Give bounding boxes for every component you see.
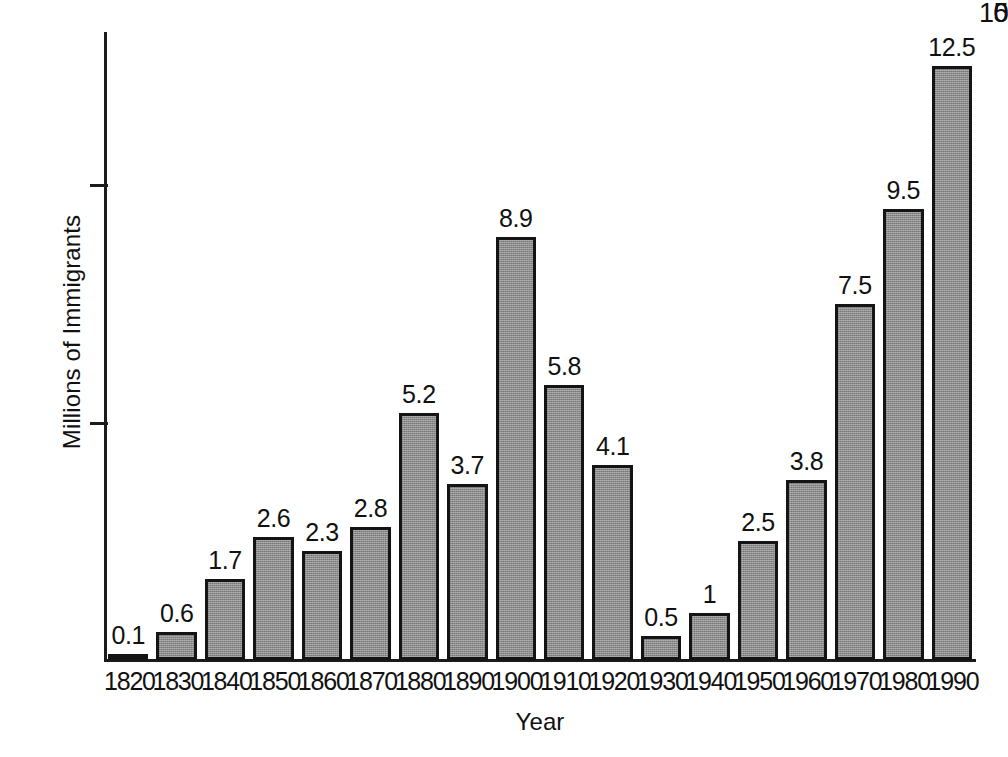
- y-axis-tick-mark-5: [90, 422, 108, 425]
- bar-value-label-1870: 2.8: [340, 496, 400, 521]
- bar-rect-1940: [689, 613, 729, 661]
- x-axis-category-labels: 1820183018401850186018701880189019001910…: [104, 666, 976, 706]
- bar-rect-1990: [932, 66, 972, 660]
- bar-value-label-1990: 12.5: [922, 35, 982, 60]
- bar-1990[interactable]: 12.5: [928, 32, 976, 660]
- x-axis-label-1950: 1950: [734, 666, 782, 696]
- bar-value-label-1900: 8.9: [486, 206, 546, 231]
- bar-rect-1910: [544, 385, 584, 661]
- bar-rect-1930: [641, 636, 681, 660]
- bar-value-label-1970: 7.5: [825, 273, 885, 298]
- x-axis-label-1920: 1920: [588, 666, 636, 696]
- bar-1880[interactable]: 5.2: [395, 32, 443, 660]
- x-axis-label-1980: 1980: [879, 666, 927, 696]
- immigration-bar-chart: 0 5 10 Millions of Immigrants Year 0.10.…: [0, 0, 1008, 757]
- x-axis-label-1870: 1870: [346, 666, 394, 696]
- bar-1820[interactable]: 0.1: [104, 32, 152, 660]
- bar-rect-1850: [253, 537, 293, 661]
- bar-value-label-1940: 1: [679, 582, 739, 607]
- bar-1900[interactable]: 8.9: [492, 32, 540, 660]
- bar-rect-1820: [108, 654, 148, 660]
- bar-1970[interactable]: 7.5: [831, 32, 879, 660]
- x-axis-label-1850: 1850: [249, 666, 297, 696]
- bar-value-label-1910: 5.8: [534, 354, 594, 379]
- bar-1920[interactable]: 4.1: [588, 32, 636, 660]
- bar-1940[interactable]: 1: [685, 32, 733, 660]
- bar-value-label-1840: 1.7: [195, 548, 255, 573]
- bar-1930[interactable]: 0.5: [637, 32, 685, 660]
- bar-value-label-1890: 3.7: [437, 453, 497, 478]
- x-axis-label-1900: 1900: [492, 666, 540, 696]
- bar-rect-1950: [738, 541, 778, 660]
- bar-value-label-1960: 3.8: [776, 449, 836, 474]
- x-axis-title: Year: [104, 709, 976, 735]
- x-axis-label-1970: 1970: [831, 666, 879, 696]
- y-axis-tick-label-10: 10: [922, 0, 1008, 27]
- x-axis-label-1940: 1940: [685, 666, 733, 696]
- bar-1910[interactable]: 5.8: [540, 32, 588, 660]
- x-axis-label-1930: 1930: [637, 666, 685, 696]
- bar-value-label-1920: 4.1: [582, 434, 642, 459]
- bar-rect-1980: [883, 209, 923, 660]
- bar-value-label-1930: 0.5: [631, 605, 691, 630]
- y-axis-tick-mark-10: [90, 184, 108, 187]
- x-axis-label-1910: 1910: [540, 666, 588, 696]
- bar-rect-1900: [496, 237, 536, 660]
- bar-value-label-1950: 2.5: [728, 510, 788, 535]
- x-axis-label-1840: 1840: [201, 666, 249, 696]
- bar-value-label-1880: 5.2: [389, 382, 449, 407]
- bar-rect-1920: [592, 465, 632, 660]
- bar-rect-1870: [350, 527, 390, 660]
- bar-rect-1860: [302, 551, 342, 660]
- x-axis-label-1960: 1960: [782, 666, 830, 696]
- bar-1950[interactable]: 2.5: [734, 32, 782, 660]
- bar-value-label-1980: 9.5: [873, 178, 933, 203]
- y-axis-title: Millions of Immigrants: [60, 182, 84, 482]
- bar-value-label-1820: 0.1: [98, 623, 158, 648]
- bar-1860[interactable]: 2.3: [298, 32, 346, 660]
- bar-rect-1960: [786, 480, 826, 661]
- bar-1870[interactable]: 2.8: [346, 32, 394, 660]
- plot-area: 0.10.61.72.62.32.85.23.78.95.84.10.512.5…: [104, 32, 976, 660]
- bar-1830[interactable]: 0.6: [152, 32, 200, 660]
- x-axis-label-1830: 1830: [152, 666, 200, 696]
- bar-1980[interactable]: 9.5: [879, 32, 927, 660]
- x-axis-label-1860: 1860: [298, 666, 346, 696]
- bar-rect-1830: [156, 632, 196, 661]
- bar-value-label-1830: 0.6: [146, 601, 206, 626]
- bar-rect-1970: [835, 304, 875, 660]
- x-axis-label-1890: 1890: [443, 666, 491, 696]
- bar-rect-1890: [447, 484, 487, 660]
- x-axis-label-1820: 1820: [104, 666, 152, 696]
- bar-1850[interactable]: 2.6: [249, 32, 297, 660]
- bar-rect-1840: [205, 579, 245, 660]
- bar-value-label-1860: 2.3: [292, 520, 352, 545]
- x-axis-label-1880: 1880: [395, 666, 443, 696]
- bar-1890[interactable]: 3.7: [443, 32, 491, 660]
- bar-1840[interactable]: 1.7: [201, 32, 249, 660]
- bar-1960[interactable]: 3.8: [782, 32, 830, 660]
- x-axis-label-1990: 1990: [928, 666, 976, 696]
- bar-rect-1880: [399, 413, 439, 660]
